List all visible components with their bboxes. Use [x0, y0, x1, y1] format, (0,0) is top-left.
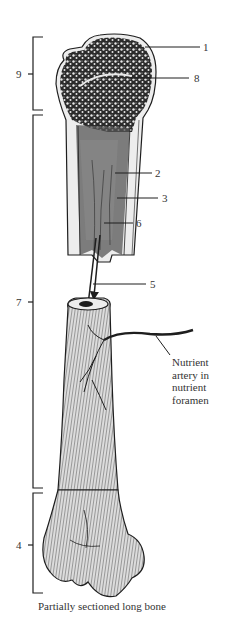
distal-epiphysis: [43, 490, 144, 597]
callout-label-2: 2: [155, 168, 161, 179]
nutrient-artery-label-line-3: nutrient: [172, 381, 209, 394]
nutrient-artery-label-line-2: artery in: [172, 369, 209, 382]
long-bone-diagram: 9 7 4 1 8 2 3 6 5 Nutrient artery in nut…: [0, 0, 227, 631]
callout-label-3: 3: [162, 193, 168, 204]
nutrient-artery-label-line-1: Nutrient: [172, 356, 209, 369]
callout-label-6: 6: [136, 218, 142, 229]
nutrient-artery: [104, 330, 193, 340]
bracket-label-7: 7: [16, 297, 22, 308]
callout-label-5: 5: [150, 279, 156, 290]
bracket-9: [28, 37, 43, 110]
callout-label-8: 8: [194, 73, 200, 84]
callout-label-1: 1: [203, 42, 209, 53]
artery-leader-line: [156, 336, 170, 355]
nutrient-artery-label-line-4: foramen: [172, 394, 209, 407]
figure-caption: Partially sectioned long bone: [38, 600, 166, 612]
bracket-label-9: 9: [16, 69, 22, 80]
diaphysis-shaft: [58, 298, 118, 490]
nutrient-artery-label: Nutrient artery in nutrient foramen: [172, 356, 209, 406]
bracket-label-4: 4: [16, 540, 22, 551]
bone-illustration: [0, 0, 227, 631]
bracket-4: [28, 493, 43, 593]
bracket-7: [28, 115, 43, 488]
